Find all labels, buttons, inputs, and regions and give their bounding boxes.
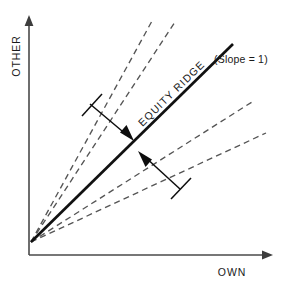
equity-ridge-label: EQUITY RIDGE (136, 58, 207, 128)
figure-canvas: OTHER OWN EQUITY RIDGE (Slope = 1) (0, 0, 290, 286)
equity-ridge-line (31, 44, 233, 242)
convergence-arrow-upper-head (120, 125, 134, 141)
slope-annotation-label: (Slope = 1) (214, 53, 268, 65)
y-axis-arrowhead (25, 15, 34, 26)
x-axis-arrowhead (262, 251, 273, 260)
dashed-ray-upper-outer (31, 21, 152, 242)
convergence-arrow-lower-tick (171, 178, 191, 199)
x-axis-label: OWN (218, 266, 246, 278)
dashed-ray-upper-inner (31, 22, 175, 242)
y-axis-label: OTHER (10, 35, 22, 76)
equity-ridge-figure: OTHER OWN EQUITY RIDGE (Slope = 1) (0, 0, 290, 286)
convergence-arrow-lower-head (138, 151, 152, 167)
